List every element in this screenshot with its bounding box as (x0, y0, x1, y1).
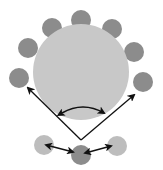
outer-circle (18, 38, 38, 58)
diagram-canvas (0, 0, 163, 170)
outer-circle (9, 68, 29, 88)
bottom-light-circle (34, 135, 54, 155)
outer-circle (133, 72, 153, 92)
central-circle (33, 24, 129, 120)
bottom-left-double-arrow (50, 146, 73, 152)
bottom-dark-circle (71, 145, 91, 165)
